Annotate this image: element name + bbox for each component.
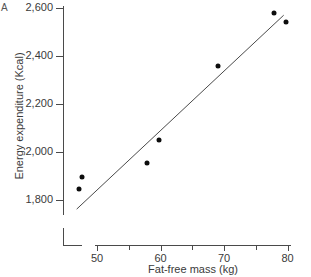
data-point	[156, 138, 161, 143]
data-point	[215, 64, 220, 69]
data-points-layer	[0, 0, 311, 277]
data-point	[145, 161, 150, 166]
energy-expenditure-scatter-figure: A 1,8002,0002,2002,4002,600 50607080 Ene…	[0, 0, 311, 277]
data-point	[80, 174, 85, 179]
data-point	[76, 186, 81, 191]
data-point	[271, 11, 276, 16]
data-point	[283, 19, 288, 24]
